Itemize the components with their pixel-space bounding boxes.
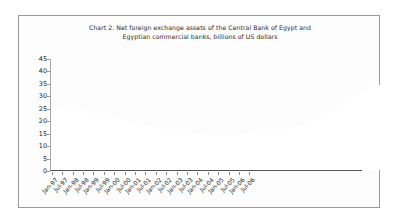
chart-title: Chart 2. Net foreign exchange assets of … <box>41 23 359 41</box>
x-axis-tick-mark <box>249 172 250 175</box>
chart-title-line-2: Egyptian commercial banks, billions of U… <box>41 32 359 41</box>
y-axis-tick-label: 0 <box>30 168 47 175</box>
plot-area: 454035302520151050 Jan-97Jul-97Jan-98Jul… <box>50 59 362 171</box>
x-axis-tick-mark <box>177 172 178 175</box>
x-axis-tick-mark <box>114 172 115 175</box>
x-axis-tick-mark <box>145 172 146 175</box>
x-axis-tick-mark <box>239 172 240 175</box>
x-axis-tick-mark <box>187 172 188 175</box>
y-axis-tick-label: 30 <box>30 93 47 100</box>
x-axis-tick-mark <box>197 172 198 175</box>
x-axis-tick-mark <box>104 172 105 175</box>
y-axis-tick-label: 25 <box>30 105 47 112</box>
x-axis-tick-mark <box>125 172 126 175</box>
x-axis-tick-mark <box>135 172 136 175</box>
y-axis-tick-label: 5 <box>30 155 47 162</box>
x-axis-tick-mark <box>62 172 63 175</box>
x-axis-tick-mark <box>156 172 157 175</box>
x-axis-tick-mark <box>218 172 219 175</box>
y-axis-tick-label: 15 <box>30 130 47 137</box>
y-axis-tick-label: 40 <box>30 68 47 75</box>
x-axis-tick-mark <box>93 172 94 175</box>
x-axis-line <box>50 170 362 171</box>
chart-figure: Chart 2. Net foreign exchange assets of … <box>18 15 380 208</box>
x-axis-tick-mark <box>229 172 230 175</box>
bar-series <box>51 59 362 170</box>
y-axis-tick-label: 45 <box>30 56 47 63</box>
x-axis-tick-mark <box>73 172 74 175</box>
x-axis-tick-mark <box>166 172 167 175</box>
y-axis: 454035302520151050 <box>30 59 47 171</box>
x-axis-tick-mark <box>83 172 84 175</box>
y-axis-tick-label: 35 <box>30 80 47 87</box>
x-axis: Jan-97Jul-97Jan-98Jul-98Jan-99Jul-99Jan-… <box>50 172 362 217</box>
x-axis-tick-mark <box>208 172 209 175</box>
y-axis-tick-label: 10 <box>30 143 47 150</box>
y-axis-tick-label: 20 <box>30 118 47 125</box>
chart-title-line-1: Chart 2. Net foreign exchange assets of … <box>41 23 359 32</box>
x-axis-tick-mark <box>52 172 53 175</box>
